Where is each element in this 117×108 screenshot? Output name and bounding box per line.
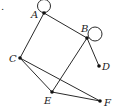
edge-b-d [87,38,99,66]
label-f: F [103,97,112,108]
node-e [50,90,54,94]
node-b [85,36,89,40]
edge-c-f [20,58,100,101]
item-marker: . [1,1,4,12]
edge-c-e [20,58,52,92]
label-e: E [43,95,52,106]
node-c [18,56,22,60]
graph-diagram: ABCDEF . [0,0,117,108]
label-c: C [9,53,17,64]
label-b: B [80,23,88,34]
loops [38,0,103,41]
loop-a [38,0,51,13]
edge-e-f [52,92,100,101]
node-d [97,64,101,68]
node-a [42,11,46,15]
loop-b [88,27,102,41]
nodes [18,11,102,103]
label-a: A [30,9,38,20]
edge-b-e [52,38,87,92]
node-f [98,99,102,103]
label-d: D [101,61,110,72]
